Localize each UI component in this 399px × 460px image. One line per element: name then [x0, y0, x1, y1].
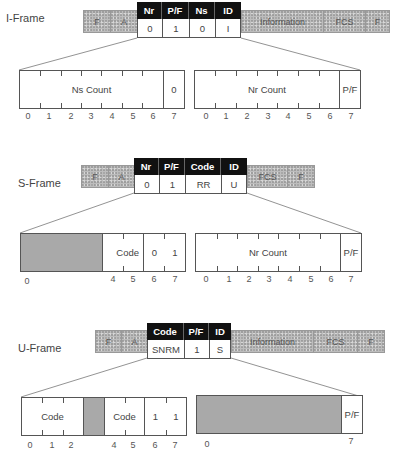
bit-label: 5 — [306, 274, 316, 284]
sframe-header-id: ID — [221, 158, 247, 175]
bit-label: 2 — [244, 274, 254, 284]
unused-bits-shaded — [21, 234, 103, 271]
uframe-header-id: ID — [209, 323, 231, 340]
bit-label: 4 — [107, 111, 117, 121]
iframe-fcs: FCS — [323, 10, 366, 33]
bit7-value: 1 — [165, 234, 185, 271]
unused-bit-shaded — [84, 398, 105, 435]
bit-label: 7 — [170, 440, 180, 450]
uframe-value-id: S — [209, 340, 231, 359]
bit-label: 3 — [86, 111, 96, 121]
bit-label: 0 — [25, 440, 35, 450]
sframe-flag-start: F — [81, 165, 109, 188]
bit-label: 5 — [128, 274, 138, 284]
bit-label: 6 — [149, 274, 159, 284]
sframe-value-pf: 1 — [159, 175, 186, 194]
bit6-value: 1 — [145, 398, 166, 435]
bit-label: 5 — [128, 111, 138, 121]
iframe-address: A — [110, 10, 138, 33]
iframe-label: I-Frame — [6, 12, 45, 24]
uframe-flag-start: F — [95, 330, 122, 353]
code-field-1: Code — [22, 398, 84, 435]
iframe-header-id: ID — [215, 2, 241, 19]
bit-label: 7 — [346, 111, 356, 121]
bit-label: 3 — [263, 111, 273, 121]
bit-label: 0 — [22, 276, 32, 286]
bit-label: 5 — [128, 440, 138, 450]
uframe-address: A — [121, 330, 148, 353]
bit-label: 0 — [201, 274, 211, 284]
sframe-header-pf: P/F — [159, 158, 185, 175]
iframe-nr-byte: Nr Count P/F — [194, 70, 361, 109]
sframe-fcs: FCS — [247, 165, 288, 188]
bit-label: 5 — [304, 111, 314, 121]
iframe-flag-end: F — [365, 10, 390, 33]
iframe-value-id: I — [215, 19, 241, 38]
sframe-value-code: RR — [185, 175, 222, 194]
bit-label: 0 — [23, 111, 33, 121]
bit-label: 7 — [346, 274, 356, 284]
pf-bit-value: P/F — [340, 71, 360, 108]
iframe-header-nr: Nr — [137, 2, 162, 19]
bit-label: 7 — [170, 274, 180, 284]
uframe-value-code: SNRM — [147, 340, 185, 359]
uframe-code-byte: Code Code 1 1 — [21, 397, 187, 436]
bit6-value: 0 — [144, 234, 165, 271]
bit-label: 1 — [224, 274, 234, 284]
bit-label: 6 — [148, 111, 158, 121]
sframe-header-nr: Nr — [134, 158, 159, 175]
uframe-pf-byte: P/F — [196, 395, 363, 434]
sframe-value-id: U — [221, 175, 247, 194]
bit-label: 7 — [346, 436, 356, 446]
iframe-flag-start: F — [83, 10, 111, 33]
bit-label: 3 — [264, 274, 274, 284]
iframe-value-nr: 0 — [137, 19, 163, 38]
iframe-information: Information — [241, 10, 324, 33]
bit-label: 4 — [285, 274, 295, 284]
iframe-ns-byte: Ns Count 0 — [19, 70, 185, 109]
sframe-code-byte: Code 0 1 — [20, 233, 186, 272]
iframe-header-pf: P/F — [162, 2, 189, 19]
sframe-address: A — [108, 165, 135, 188]
bit-label: 2 — [242, 111, 252, 121]
bit-label: 7 — [169, 111, 179, 121]
bit-label: 1 — [221, 111, 231, 121]
sframe-label: S-Frame — [18, 177, 61, 189]
bit-label: 6 — [150, 440, 160, 450]
bit-label: 1 — [44, 111, 54, 121]
bit-label: 4 — [109, 440, 119, 450]
bit7-value: 1 — [166, 398, 186, 435]
uframe-header-code: Code — [147, 323, 184, 340]
bit-label: 4 — [108, 274, 118, 284]
iframe-value-ns: 0 — [189, 19, 216, 38]
iframe-header-ns: Ns — [189, 2, 215, 19]
pf-bit-value: P/F — [342, 396, 362, 433]
uframe-value-pf: 1 — [184, 340, 210, 359]
uframe-label: U-Frame — [18, 342, 61, 354]
unused-bits-shaded — [197, 396, 342, 433]
bit-label: 0 — [201, 111, 211, 121]
sframe-flag-end: F — [287, 165, 315, 188]
bit-label: 0 — [202, 439, 212, 449]
sframe-nr-byte: Nr Count P/F — [195, 233, 362, 272]
uframe-information: Information — [231, 330, 314, 353]
bit-label: 6 — [326, 274, 336, 284]
bit-label: 6 — [325, 111, 335, 121]
zoom-connector-lines — [0, 0, 399, 460]
bit-label: 4 — [283, 111, 293, 121]
bit-label: 2 — [66, 440, 76, 450]
ns-bit7-value: 0 — [164, 71, 184, 108]
pf-bit-value: P/F — [341, 234, 361, 271]
uframe-header-pf: P/F — [184, 323, 209, 340]
sframe-value-nr: 0 — [134, 175, 160, 194]
uframe-fcs: FCS — [313, 330, 358, 353]
bit-label: 1 — [47, 440, 57, 450]
bit-label: 2 — [66, 111, 76, 121]
uframe-flag-end: F — [357, 330, 385, 353]
iframe-value-pf: 1 — [162, 19, 190, 38]
sframe-header-code: Code — [185, 158, 221, 175]
